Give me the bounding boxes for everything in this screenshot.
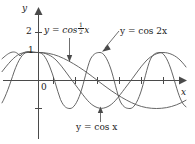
curve-label-cos-half-x-prefix: y = cos	[44, 25, 77, 35]
y-tick-label-1: 1	[28, 46, 34, 55]
curve-label-cos-half-x-suffix: x	[84, 25, 89, 35]
fraction-one-half: 12	[78, 22, 84, 36]
leader-cos-2x	[102, 31, 119, 52]
x-axis-label: x	[181, 88, 186, 97]
leader-cos-half-x	[67, 38, 72, 62]
y-axis-arrowhead	[35, 7, 43, 15]
y-tick-label-2: 2	[26, 27, 32, 36]
origin-label: 0	[41, 83, 47, 92]
leader-cos-x	[98, 107, 103, 123]
x-axis-arrowhead	[179, 77, 187, 85]
curve-label-cos-half-x: y = cos12x	[44, 22, 89, 36]
y-axis-label: y	[22, 4, 27, 13]
curve-label-cos-2x: y = cos 2x	[120, 27, 167, 36]
curve-label-cos-x: y = cos x	[76, 123, 117, 132]
fraction-denominator: 2	[78, 28, 84, 35]
cosine-graphs-figure: y x 2 1 0 y = cos12x y = cos 2x y = cos …	[0, 0, 195, 144]
